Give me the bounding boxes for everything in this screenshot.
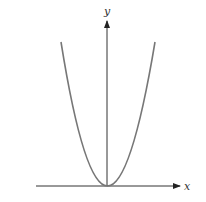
- x-axis-label: x: [184, 180, 191, 193]
- parabola-chart: y x: [0, 0, 206, 202]
- parabola-curve: [61, 42, 155, 186]
- y-axis-label: y: [103, 5, 111, 18]
